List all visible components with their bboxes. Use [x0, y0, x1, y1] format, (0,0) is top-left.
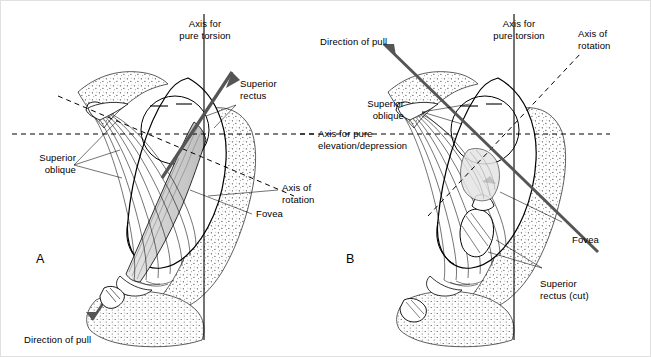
label-axis-pure-torsion-b: Axis for pure torsion [474, 18, 564, 41]
label-fovea-b: Fovea [572, 234, 622, 246]
panel-a-drawing [12, 14, 316, 347]
figure-container: Axis for pure torsion Superior rectus Su… [0, 0, 651, 357]
label-axis-of-rotation-b: Axis of rotation [578, 28, 640, 51]
label-superior-oblique-b: Superior oblique [330, 98, 404, 121]
label-fovea-a: Fovea [256, 208, 316, 220]
label-axis-pure-torsion-a: Axis for pure torsion [160, 18, 250, 41]
figure-illustration [0, 0, 651, 357]
label-superior-oblique-a: Superior oblique [6, 152, 76, 175]
label-axis-of-rotation-a: Axis of rotation [282, 182, 352, 205]
label-superior-rectus-a: Superior rectus [240, 78, 314, 101]
label-axis-pure-elevation: Axis for pure elevation/depression [318, 128, 422, 151]
label-direction-of-pull-a: Direction of pull [24, 334, 144, 346]
panel-letter-a: A [36, 252, 44, 266]
panel-letter-b: B [346, 252, 354, 266]
label-superior-rectus-cut-b: Superior rectus (cut) [540, 278, 626, 301]
label-direction-of-pull-b: Direction of pull [320, 36, 422, 48]
